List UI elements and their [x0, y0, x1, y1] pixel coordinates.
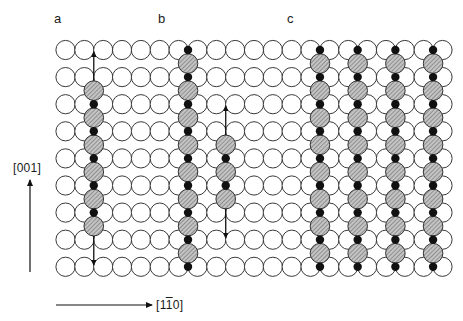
substrate-atom [131, 176, 150, 195]
substrate-atom [226, 230, 245, 249]
black-dot-atom [184, 181, 192, 189]
hatched-adatom [386, 216, 406, 236]
black-dot-atom [90, 127, 98, 135]
hatched-adatom [84, 216, 104, 236]
hatched-adatom [348, 243, 368, 263]
black-dot-atom [316, 236, 324, 244]
black-dot-atom [391, 100, 399, 108]
substrate-atom [56, 176, 75, 195]
substrate-atom [131, 257, 150, 276]
black-dot-atom [316, 263, 324, 271]
hatched-adatom [310, 216, 330, 236]
substrate-atom [282, 230, 301, 249]
hatched-adatom [423, 162, 443, 182]
black-dot-atom [353, 73, 361, 81]
substrate-atom [282, 122, 301, 141]
black-dot-atom [391, 127, 399, 135]
substrate-atom [112, 176, 131, 195]
hatched-adatom [84, 81, 104, 101]
substrate-atom [207, 68, 226, 87]
black-dot-atom [391, 208, 399, 216]
hatched-adatom [348, 54, 368, 74]
substrate-atom [244, 68, 263, 87]
black-dot-atom [353, 208, 361, 216]
substrate-atom [112, 203, 131, 222]
substrate-atom [56, 95, 75, 114]
hatched-adatom [310, 135, 330, 155]
substrate-atom [131, 68, 150, 87]
axis-label-1-10: [110] [156, 299, 183, 311]
black-dot-atom [429, 127, 437, 135]
black-dot-atom [429, 181, 437, 189]
black-dot-atom [429, 46, 437, 54]
hatched-adatom [310, 162, 330, 182]
black-dot-atom [316, 127, 324, 135]
hatched-adatom [386, 135, 406, 155]
hatched-adatom [178, 216, 198, 236]
hatched-adatom [348, 189, 368, 209]
substrate-atom [244, 257, 263, 276]
substrate-atom [263, 40, 282, 59]
black-dot-atom [184, 208, 192, 216]
black-dot-atom [429, 263, 437, 271]
hatched-adatom [348, 135, 368, 155]
substrate-atom [56, 230, 75, 249]
substrate-atom [150, 95, 169, 114]
hatched-adatom [84, 162, 104, 182]
substrate-atom [56, 203, 75, 222]
substrate-atom [207, 257, 226, 276]
hatched-adatom [84, 189, 104, 209]
hatched-adatom [386, 162, 406, 182]
black-dot-atom [184, 154, 192, 162]
hatched-adatom [178, 54, 198, 74]
black-dot-atom [184, 100, 192, 108]
black-dot-atom [184, 73, 192, 81]
substrate-atom [150, 203, 169, 222]
substrate-atom [244, 95, 263, 114]
black-dot-atom [353, 46, 361, 54]
substrate-atom [112, 40, 131, 59]
substrate-atom [244, 230, 263, 249]
hatched-adatom [386, 189, 406, 209]
hatched-adatom [310, 189, 330, 209]
black-dot-atom [391, 236, 399, 244]
black-dot-atom [353, 263, 361, 271]
hatched-adatom [178, 135, 198, 155]
black-dot-atom [184, 236, 192, 244]
hatched-adatom [386, 108, 406, 128]
black-dot-atom [316, 208, 324, 216]
panel-label-b: b [158, 12, 165, 25]
substrate-atom [263, 176, 282, 195]
hatched-adatom [386, 243, 406, 263]
substrate-atom [56, 40, 75, 59]
substrate-atom [112, 122, 131, 141]
black-dot-atom [429, 100, 437, 108]
axis-label-suffix: 0] [173, 298, 184, 312]
substrate-atom [244, 122, 263, 141]
substrate-atom [150, 149, 169, 168]
black-dot-atom [353, 127, 361, 135]
substrate-atom [131, 203, 150, 222]
substrate-atom [150, 230, 169, 249]
substrate-atom [207, 40, 226, 59]
substrate-atom [244, 203, 263, 222]
black-dot-atom [316, 154, 324, 162]
hatched-adatom [423, 189, 443, 209]
black-dot-atom [222, 181, 230, 189]
substrate-atom [75, 40, 94, 59]
hatched-adatom [423, 216, 443, 236]
substrate-atom [150, 176, 169, 195]
hatched-adatom [348, 108, 368, 128]
black-dot-atom [90, 100, 98, 108]
hatched-adatom [84, 108, 104, 128]
substrate-atom [150, 122, 169, 141]
substrate-atom [263, 95, 282, 114]
panel-label-a: a [54, 12, 61, 25]
black-dot-atom [90, 208, 98, 216]
black-dot-atom [391, 263, 399, 271]
black-dot-atom [184, 46, 192, 54]
substrate-atom [94, 257, 113, 276]
black-dot-atom [316, 46, 324, 54]
substrate-atom [263, 149, 282, 168]
black-dot-atom [316, 181, 324, 189]
